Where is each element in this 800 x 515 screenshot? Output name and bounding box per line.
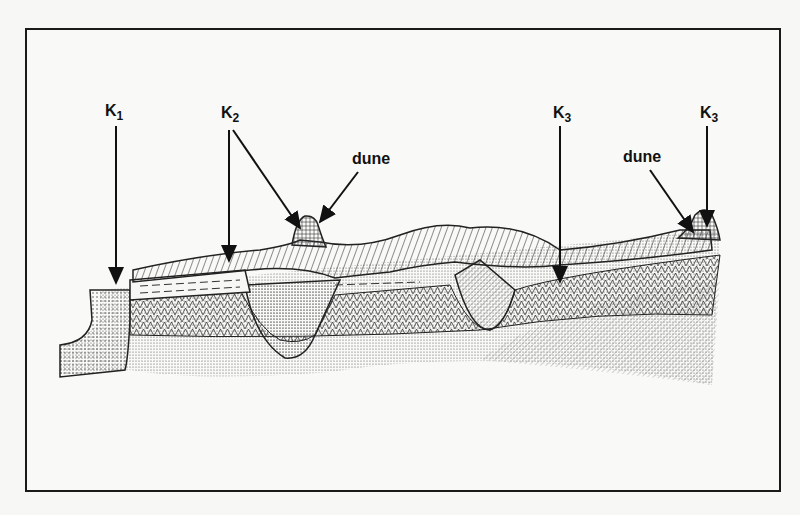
label-k3-right: K3 — [700, 104, 718, 125]
label-k3-left: K3 — [553, 104, 571, 125]
cross-section-diagram — [0, 0, 800, 515]
label-dune-left: dune — [352, 150, 390, 168]
label-k1: K1 — [105, 102, 123, 123]
label-dune-right: dune — [623, 148, 661, 166]
label-k2: K2 — [221, 104, 239, 125]
